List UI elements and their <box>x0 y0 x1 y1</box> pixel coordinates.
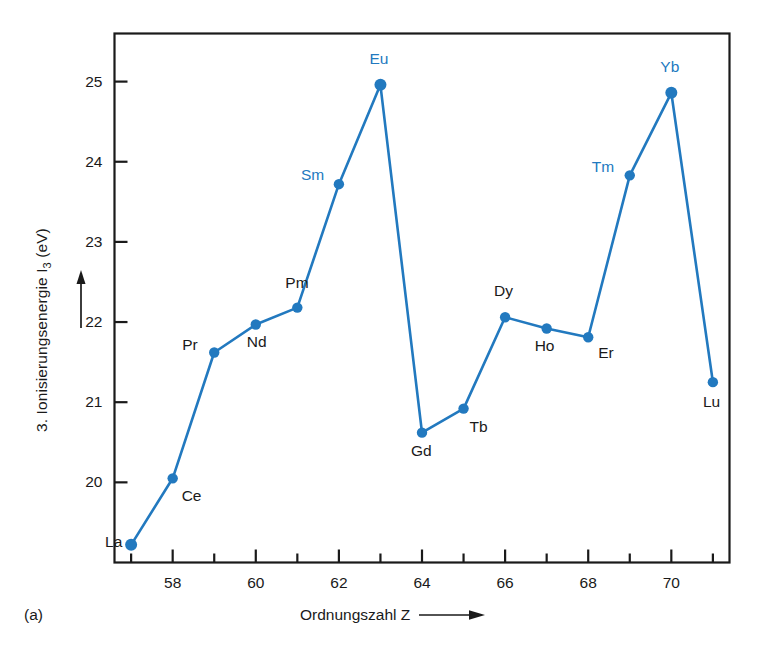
chart-plot-area <box>0 0 762 656</box>
data-point-label-yb: Yb <box>660 59 679 75</box>
data-point-label-ho: Ho <box>535 338 555 354</box>
data-point-marker[interactable] <box>458 403 468 413</box>
x-tick-label: 70 <box>649 575 693 591</box>
data-point-marker[interactable] <box>125 539 137 551</box>
data-point-marker[interactable] <box>500 312 510 322</box>
data-point-label-tm: Tm <box>592 159 614 175</box>
data-point-label-gd: Gd <box>411 443 432 459</box>
data-point-label-la: La <box>105 534 122 550</box>
data-point-marker[interactable] <box>251 319 261 329</box>
y-tick-label: 24 <box>63 154 103 170</box>
y-axis-title-subscript: 3 <box>41 262 53 268</box>
data-point-marker[interactable] <box>708 377 718 387</box>
data-point-label-sm: Sm <box>301 167 324 183</box>
y-tick-label: 21 <box>63 394 103 410</box>
right-arrow-icon <box>419 609 485 621</box>
y-tick-label: 22 <box>63 314 103 330</box>
data-point-label-pm: Pm <box>285 275 308 291</box>
plot-frame <box>115 34 730 563</box>
data-point-label-nd: Nd <box>247 334 267 350</box>
data-point-label-dy: Dy <box>494 283 513 299</box>
x-tick-label: 66 <box>483 575 527 591</box>
panel-label: (a) <box>24 606 43 624</box>
y-axis-title-group: 3. Ionisierungsenergie I3 (eV) <box>18 150 54 510</box>
x-axis-title: Ordnungszahl Z <box>300 606 410 624</box>
data-point-label-pr: Pr <box>182 337 198 353</box>
x-tick-label: 64 <box>400 575 444 591</box>
y-axis-title: 3. Ionisierungsenergie I3 (eV) <box>33 150 53 510</box>
x-tick-label: 62 <box>317 575 361 591</box>
x-tick-label: 68 <box>566 575 610 591</box>
data-point-marker[interactable] <box>167 473 177 483</box>
y-tick-label: 23 <box>63 234 103 250</box>
y-axis-title-unit: (eV) <box>33 228 50 262</box>
data-point-marker[interactable] <box>292 302 302 312</box>
data-point-marker[interactable] <box>583 332 593 342</box>
data-point-marker[interactable] <box>209 347 219 357</box>
y-axis-title-main: 3. Ionisierungsenergie I <box>33 268 50 432</box>
data-point-marker[interactable] <box>374 79 386 91</box>
data-point-label-tb: Tb <box>470 419 488 435</box>
data-point-label-eu: Eu <box>369 51 388 67</box>
data-point-marker[interactable] <box>334 179 344 189</box>
data-point-label-lu: Lu <box>703 394 720 410</box>
data-point-label-ce: Ce <box>182 488 202 504</box>
data-point-label-er: Er <box>598 345 614 361</box>
data-point-marker[interactable] <box>541 323 551 333</box>
data-point-marker[interactable] <box>417 427 427 437</box>
y-tick-label: 20 <box>63 474 103 490</box>
data-point-marker[interactable] <box>625 170 635 180</box>
y-tick-label: 25 <box>63 74 103 90</box>
x-tick-label: 60 <box>234 575 278 591</box>
x-tick-label: 58 <box>151 575 195 591</box>
x-axis-title-group: Ordnungszahl Z <box>300 606 485 624</box>
ionization-energy-chart-figure: 3. Ionisierungsenergie I3 (eV) Ordnungsz… <box>0 0 762 656</box>
data-point-marker[interactable] <box>665 87 677 99</box>
